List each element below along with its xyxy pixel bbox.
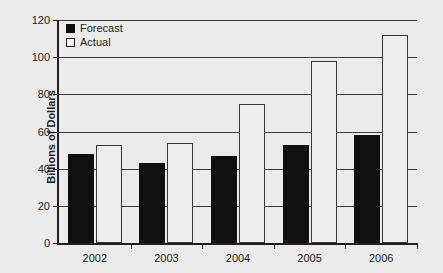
y-axis-tick-label: 40 xyxy=(38,163,50,175)
x-axis-tick xyxy=(345,243,346,249)
plot-area: 020406080100120 20022003200420052006 xyxy=(57,20,417,245)
outlined-square-icon xyxy=(66,38,75,47)
bar-forecast-2003 xyxy=(139,163,165,243)
bar-group xyxy=(274,20,346,243)
x-axis-tick xyxy=(131,243,132,249)
bar-forecast-2005 xyxy=(283,145,309,243)
x-axis-tick-label: 2003 xyxy=(154,252,178,264)
y-axis-tick-label: 60 xyxy=(38,126,50,138)
y-axis-tick-label: 20 xyxy=(38,200,50,212)
bar-group xyxy=(59,20,131,243)
y-axis-tick-label: 0 xyxy=(44,237,50,249)
bar-forecast-2004 xyxy=(211,156,237,243)
bars-layer xyxy=(59,20,417,243)
legend-label-actual: Actual xyxy=(80,37,111,48)
filled-square-icon xyxy=(66,24,75,33)
y-axis-tick-label: 80 xyxy=(38,88,50,100)
x-axis-tick xyxy=(417,243,418,249)
x-axis-tick-label: 2006 xyxy=(369,252,393,264)
bar-chart: Billions of Dollars 020406080100120 2002… xyxy=(0,0,443,273)
bar-forecast-2006 xyxy=(354,135,380,243)
x-axis-tick-label: 2005 xyxy=(297,252,321,264)
x-axis-tick xyxy=(274,243,275,249)
bar-actual-2006 xyxy=(382,35,408,243)
legend: Forecast Actual xyxy=(66,23,123,48)
bar-forecast-2002 xyxy=(68,154,94,243)
x-axis-tick-label: 2002 xyxy=(83,252,107,264)
bar-group xyxy=(345,20,417,243)
x-axis-tick-label: 2004 xyxy=(226,252,250,264)
y-axis-tick xyxy=(53,243,59,244)
y-axis-tick-label: 120 xyxy=(32,14,50,26)
legend-label-forecast: Forecast xyxy=(80,23,123,34)
bar-actual-2003 xyxy=(167,143,193,243)
y-axis-tick-label: 100 xyxy=(32,51,50,63)
x-axis-tick xyxy=(202,243,203,249)
legend-item-actual: Actual xyxy=(66,37,123,48)
bar-actual-2002 xyxy=(96,145,122,243)
bar-group xyxy=(131,20,203,243)
legend-item-forecast: Forecast xyxy=(66,23,123,34)
bar-group xyxy=(202,20,274,243)
bar-actual-2004 xyxy=(239,104,265,243)
bar-actual-2005 xyxy=(311,61,337,243)
